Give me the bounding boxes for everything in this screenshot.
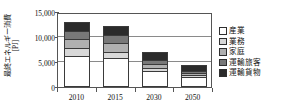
legend-item: 家庭 — [219, 47, 279, 57]
bar-segment — [103, 26, 129, 35]
legend-label: 産業 — [229, 27, 245, 35]
y-axis-tick-label: 0 — [21, 84, 55, 93]
bar-segment — [103, 43, 129, 52]
bar-segment — [64, 39, 90, 48]
legend-item: 業務 — [219, 36, 279, 46]
legend-swatch-icon — [219, 69, 227, 77]
y-axis-tick-label: 10,000 — [21, 34, 55, 43]
stacked-bar-chart: 最終エネルギー消費 [PJ] 05,00010,00015,000 201020… — [0, 0, 281, 112]
x-axis-tick-label: 2050 — [173, 93, 213, 102]
y-axis-tick-label: 5,000 — [21, 59, 55, 68]
bar-2050 — [181, 65, 207, 88]
bar-2015 — [103, 26, 129, 87]
legend-label: 運輸旅客 — [229, 59, 261, 67]
bar-segment — [64, 31, 90, 40]
bar-segment — [181, 77, 207, 88]
legend-item: 産業 — [219, 26, 279, 36]
x-axis-tick-mark — [135, 88, 136, 92]
legend-swatch-icon — [219, 59, 227, 67]
bar-segment — [103, 58, 129, 87]
y-axis-tick-labels: 05,00010,00015,000 — [19, 13, 55, 88]
legend-item: 運輸貨物 — [219, 68, 279, 78]
legend-swatch-icon — [219, 38, 227, 46]
plot-area — [57, 13, 212, 88]
legend-label: 運輸貨物 — [229, 69, 261, 77]
x-axis-tick-labels: 2010201520302050 — [57, 88, 212, 108]
x-axis-tick-label: 2030 — [134, 93, 174, 102]
legend-label: 業務 — [229, 38, 245, 46]
x-axis-tick-label: 2015 — [95, 93, 135, 102]
x-axis-tick-label: 2010 — [56, 93, 96, 102]
x-axis-tick-mark — [212, 88, 213, 92]
bar-segment — [64, 56, 90, 87]
bar-2010 — [64, 22, 90, 87]
bar-segment — [64, 48, 90, 56]
x-axis-tick-mark — [173, 88, 174, 92]
bar-segment — [142, 71, 168, 87]
x-axis-tick-mark — [57, 88, 58, 92]
legend-swatch-icon — [219, 27, 227, 35]
y-axis-tick-label: 15,000 — [21, 9, 55, 18]
legend-swatch-icon — [219, 48, 227, 56]
legend-label: 家庭 — [229, 48, 245, 56]
legend-item: 運輸旅客 — [219, 57, 279, 67]
bar-2030 — [142, 52, 168, 87]
x-axis-tick-mark — [96, 88, 97, 92]
y-axis-title-main: 最終エネルギー消費 — [4, 15, 12, 78]
bar-segment — [142, 52, 168, 60]
bar-segment — [103, 35, 129, 43]
chart-legend: 産業業務家庭運輸旅客運輸貨物 — [219, 26, 279, 78]
bar-segment — [64, 22, 90, 31]
